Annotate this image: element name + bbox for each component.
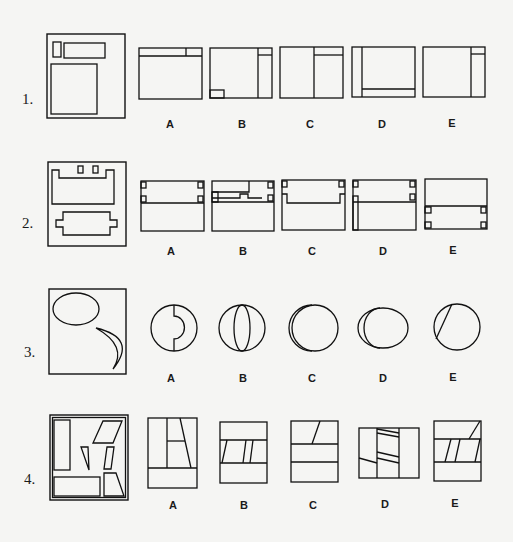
stem-piece (51, 64, 97, 114)
option-label: A (169, 499, 177, 511)
stem-piece (93, 421, 122, 443)
option-shape (455, 439, 460, 462)
stem-piece (96, 328, 122, 369)
option-shape (220, 422, 267, 483)
option-a[interactable]: A (151, 305, 197, 384)
option-shape (268, 182, 273, 188)
option-shape (180, 418, 191, 468)
option-e[interactable]: E (434, 421, 481, 509)
option-b[interactable]: B (210, 48, 272, 130)
option-shape (353, 180, 416, 230)
option-shape (364, 308, 380, 348)
option-shape (198, 182, 203, 188)
option-shape (141, 196, 146, 202)
option-shape (410, 194, 415, 200)
option-a[interactable]: A (139, 48, 202, 130)
option-shape (222, 440, 227, 463)
option-a[interactable]: A (148, 418, 197, 511)
option-shape (377, 433, 399, 437)
option-shape (219, 305, 265, 351)
option-shape (268, 195, 273, 201)
option-label: E (448, 117, 455, 129)
option-b[interactable]: B (220, 422, 267, 511)
question-4: 4.ABCDE (24, 415, 481, 511)
option-shape (141, 181, 204, 231)
question-number: 3. (24, 344, 35, 360)
option-shape (481, 222, 486, 228)
option-b[interactable]: B (212, 181, 274, 257)
option-label: D (381, 498, 389, 510)
option-label: D (379, 245, 387, 257)
option-e[interactable]: E (425, 179, 487, 256)
option-d[interactable]: D (358, 308, 408, 384)
option-shape (212, 181, 274, 231)
option-shape (234, 305, 250, 351)
option-shape (377, 452, 399, 457)
option-b[interactable]: B (219, 305, 265, 384)
option-label: B (240, 499, 248, 511)
option-shape (475, 439, 480, 462)
stem-frame (49, 289, 126, 374)
option-shape (377, 458, 399, 463)
option-shape (210, 90, 224, 98)
stem-piece (54, 420, 70, 470)
question-1: 1.ABCDE (22, 34, 485, 130)
option-label: E (449, 244, 456, 256)
option-shape (282, 180, 345, 230)
stem-piece (56, 212, 117, 235)
option-shape (198, 196, 203, 202)
stem-piece (93, 166, 98, 173)
option-c[interactable]: C (280, 47, 343, 130)
option-shape (174, 305, 184, 351)
stem-figure (50, 415, 128, 500)
option-shape (312, 421, 320, 444)
stem-figure (47, 34, 125, 118)
option-shape (410, 181, 415, 187)
stem-piece (104, 447, 114, 469)
stem-piece (81, 447, 89, 470)
option-d[interactable]: D (352, 47, 415, 130)
option-shape (148, 418, 197, 488)
stem-piece (53, 293, 99, 325)
option-shape (358, 308, 408, 348)
option-shape (212, 194, 262, 198)
puzzle-canvas: 1.ABCDE2.ABCDE3.ABCDE4.ABCDE (0, 0, 513, 542)
option-shape (292, 305, 338, 351)
question-3: 3.ABCDE (24, 289, 480, 384)
option-label: B (239, 372, 247, 384)
stem-figure (48, 162, 126, 246)
option-label: C (309, 499, 317, 511)
option-label: A (167, 245, 175, 257)
option-label: C (308, 245, 316, 257)
option-shape (353, 181, 358, 187)
test-sheet: 1.ABCDE2.ABCDE3.ABCDE4.ABCDE (0, 0, 513, 542)
option-shape (377, 429, 399, 433)
stem-piece (104, 473, 124, 496)
stem-piece (53, 42, 61, 57)
stem-piece (52, 170, 114, 204)
stem-piece (54, 477, 100, 496)
option-shape (282, 194, 345, 203)
stem-piece (64, 43, 105, 58)
option-e[interactable]: E (434, 304, 480, 383)
question-2: 2.ABCDE (22, 162, 487, 257)
stem-piece (78, 166, 83, 173)
option-c[interactable]: C (282, 180, 345, 257)
option-a[interactable]: A (141, 181, 204, 257)
option-shape (425, 222, 431, 228)
option-label: C (308, 372, 316, 384)
option-e[interactable]: E (423, 47, 485, 129)
option-shape (282, 181, 287, 187)
option-label: A (167, 372, 175, 384)
option-d[interactable]: D (353, 180, 416, 257)
stem-frame (47, 34, 125, 118)
option-shape (291, 421, 338, 482)
option-shape (212, 181, 249, 192)
option-d[interactable]: D (359, 428, 419, 510)
option-c[interactable]: C (289, 305, 338, 384)
option-shape (425, 179, 487, 229)
option-c[interactable]: C (291, 421, 338, 511)
option-shape (353, 196, 358, 230)
option-label: E (451, 497, 458, 509)
option-shape (359, 458, 377, 463)
